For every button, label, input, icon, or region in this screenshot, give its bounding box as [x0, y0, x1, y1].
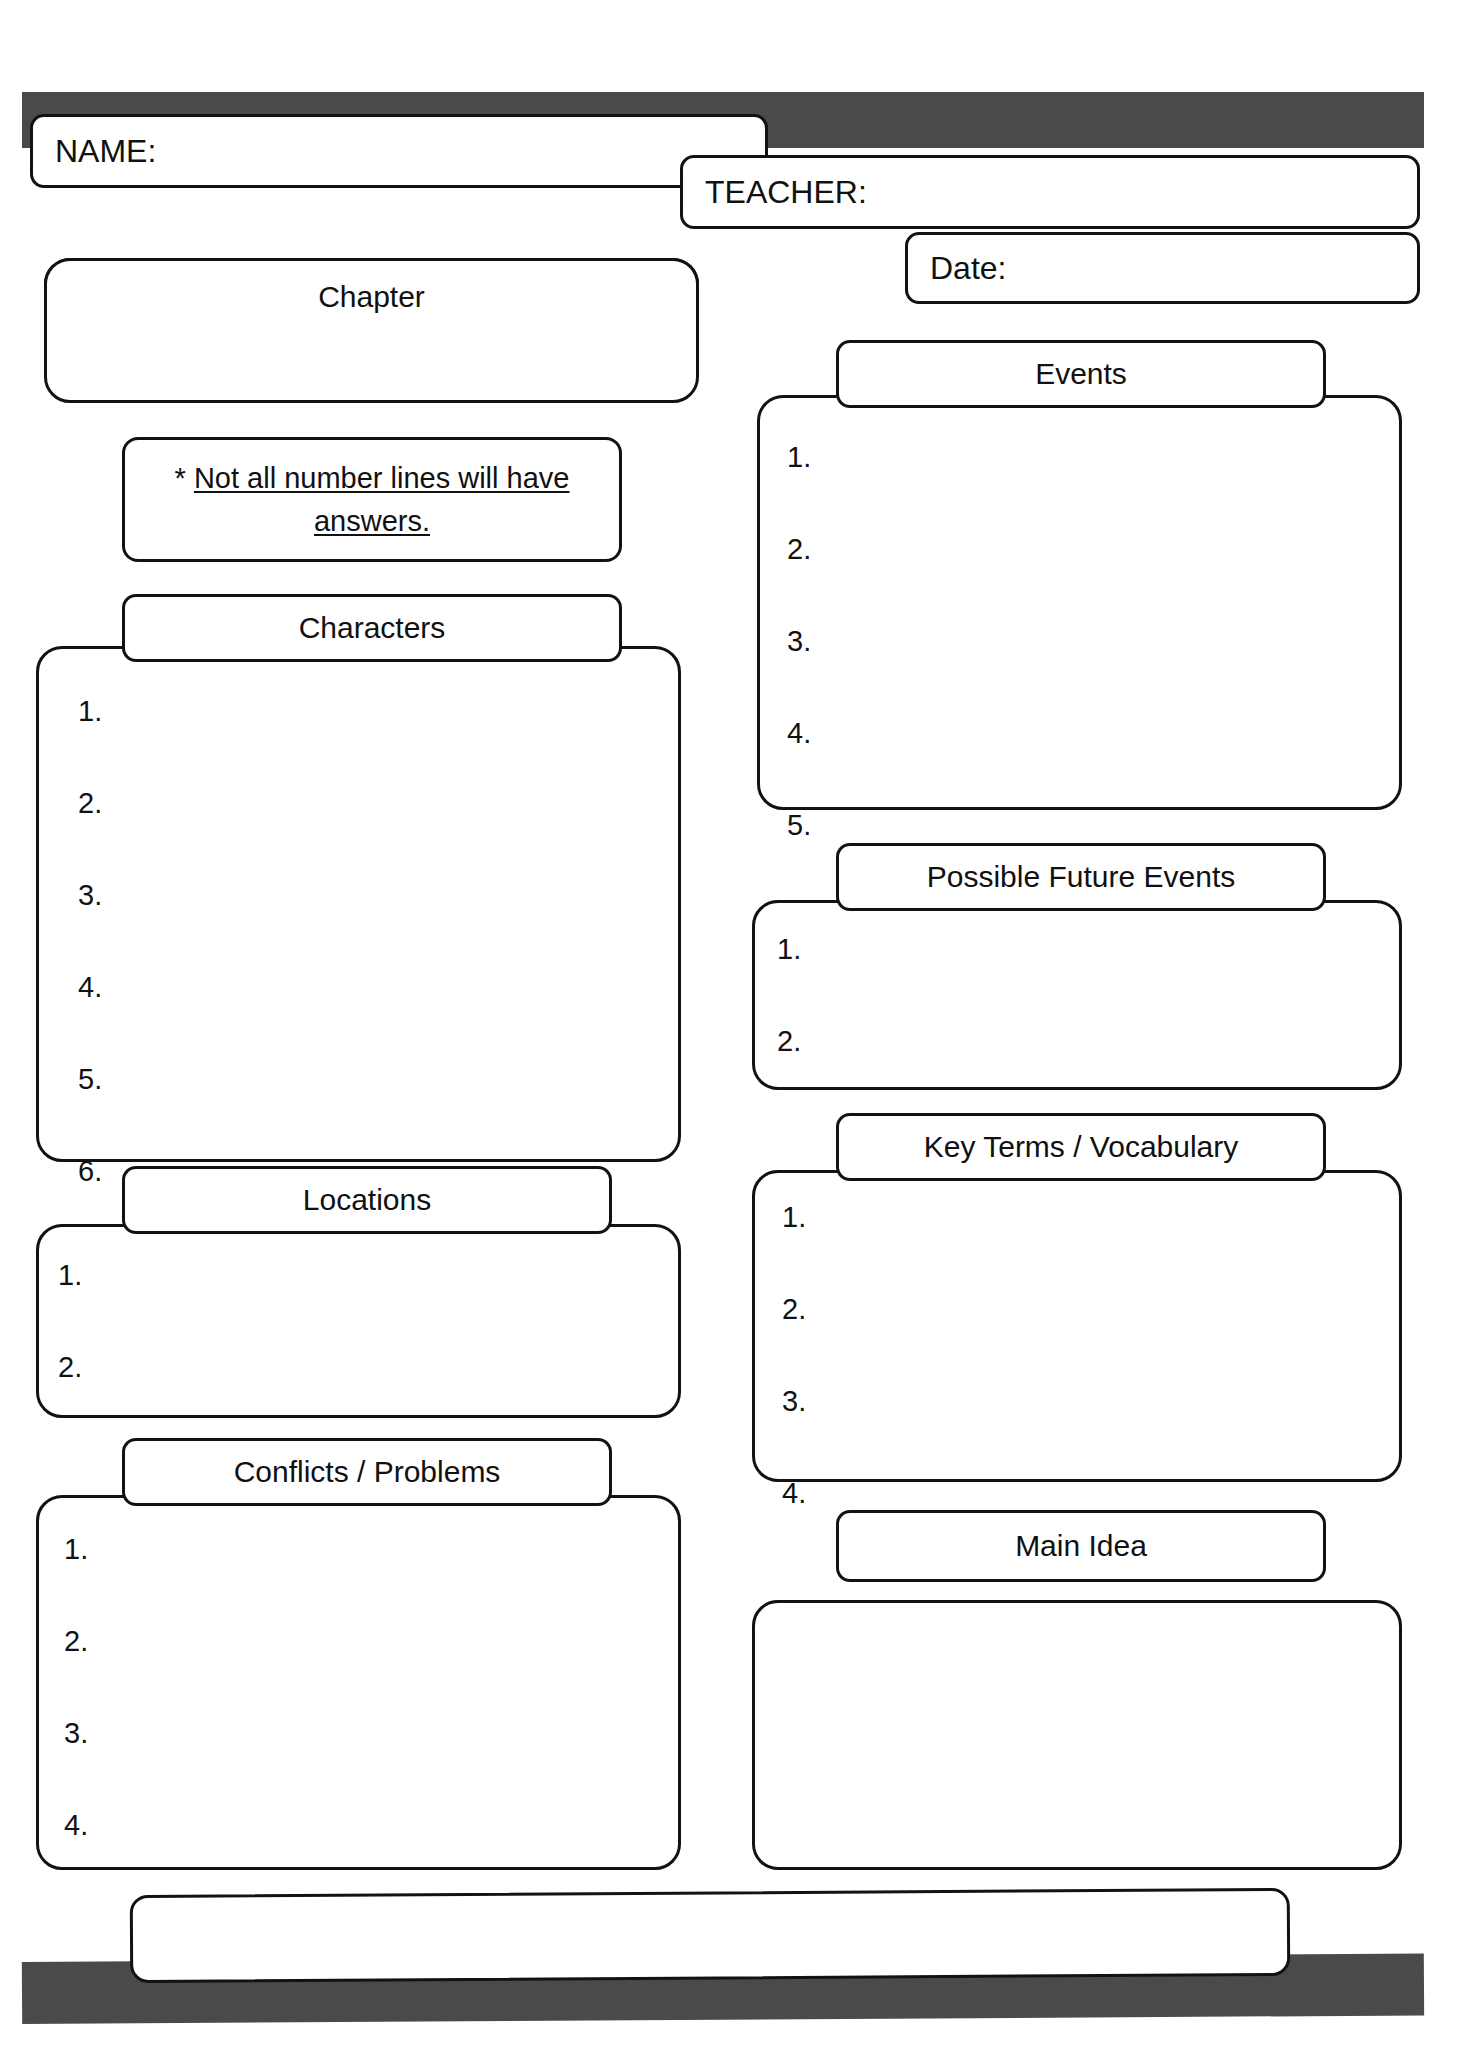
conflicts-box[interactable]: [36, 1495, 681, 1870]
date-field-label: Date:: [930, 250, 1006, 287]
list-item: 4.: [787, 719, 811, 748]
list-item: 6.: [78, 1157, 102, 1186]
events-header-label: Events: [1035, 357, 1127, 391]
key-terms-number-list: 1. 2. 3. 4.: [782, 1203, 806, 1508]
teacher-field[interactable]: TEACHER:: [680, 155, 1420, 229]
future-events-box[interactable]: [752, 900, 1402, 1090]
list-item: 1.: [777, 935, 801, 964]
events-header: Events: [836, 340, 1326, 408]
characters-header-label: Characters: [299, 611, 446, 645]
list-item: 4.: [782, 1479, 806, 1508]
worksheet-page: NAME: TEACHER: Date: Chapter * Not all n…: [0, 0, 1478, 2070]
number-lines-note: * Not all number lines will have answers…: [122, 437, 622, 562]
list-item: 5.: [787, 811, 811, 840]
list-item: 2.: [777, 1027, 801, 1056]
list-item: 1.: [782, 1203, 806, 1232]
list-item: 4.: [64, 1811, 88, 1840]
characters-box[interactable]: [36, 646, 681, 1162]
list-item: 1.: [58, 1261, 82, 1290]
main-idea-box[interactable]: [752, 1600, 1402, 1870]
list-item: 3.: [787, 627, 811, 656]
conflicts-header: Conflicts / Problems: [122, 1438, 612, 1506]
main-idea-header-label: Main Idea: [1015, 1529, 1147, 1563]
list-item: 2.: [787, 535, 811, 564]
date-field[interactable]: Date:: [905, 232, 1420, 304]
future-events-number-list: 1. 2.: [777, 935, 801, 1056]
list-item: 2.: [782, 1295, 806, 1324]
chapter-header: Chapter: [44, 258, 699, 333]
list-item: 1.: [787, 443, 811, 472]
list-item: 2.: [58, 1353, 82, 1382]
name-field[interactable]: NAME:: [30, 114, 768, 188]
conflicts-header-label: Conflicts / Problems: [234, 1455, 501, 1489]
future-events-header-label: Possible Future Events: [927, 860, 1235, 894]
list-item: 1.: [64, 1535, 88, 1564]
list-item: 5.: [78, 1065, 102, 1094]
list-item: 2.: [78, 789, 102, 818]
events-box[interactable]: [757, 395, 1402, 810]
note-asterisk: *: [175, 462, 186, 494]
key-terms-header-label: Key Terms / Vocabulary: [924, 1130, 1239, 1164]
key-terms-header: Key Terms / Vocabulary: [836, 1113, 1326, 1181]
note-text-wrapper: * Not all number lines will have answers…: [139, 457, 605, 541]
name-field-label: NAME:: [55, 133, 156, 170]
teacher-field-label: TEACHER:: [705, 174, 867, 211]
locations-box[interactable]: [36, 1224, 681, 1418]
list-item: 3.: [782, 1387, 806, 1416]
locations-header-label: Locations: [303, 1183, 431, 1217]
list-item: 3.: [78, 881, 102, 910]
conflicts-number-list: 1. 2. 3. 4.: [64, 1535, 88, 1840]
characters-header: Characters: [122, 594, 622, 662]
note-underlined-text: Not all number lines will have answers.: [194, 462, 570, 536]
key-terms-box[interactable]: [752, 1170, 1402, 1482]
list-item: 3.: [64, 1719, 88, 1748]
chapter-header-label: Chapter: [318, 280, 425, 314]
locations-number-list: 1. 2.: [58, 1261, 82, 1382]
footer-blank-box[interactable]: [130, 1888, 1291, 1983]
locations-header: Locations: [122, 1166, 612, 1234]
list-item: 1.: [78, 697, 102, 726]
list-item: 4.: [78, 973, 102, 1002]
future-events-header: Possible Future Events: [836, 843, 1326, 911]
main-idea-header: Main Idea: [836, 1510, 1326, 1582]
events-number-list: 1. 2. 3. 4. 5.: [787, 443, 811, 840]
list-item: 2.: [64, 1627, 88, 1656]
characters-number-list: 1. 2. 3. 4. 5. 6.: [78, 697, 102, 1186]
